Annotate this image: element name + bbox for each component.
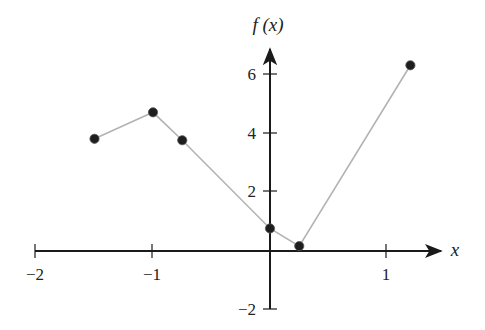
data-point [295, 241, 304, 250]
data-point [406, 61, 415, 70]
y-tick-label-neg2: −2 [238, 300, 256, 319]
x-tick-label-neg1: −1 [143, 265, 161, 284]
function-plot: −2 −1 1 6 4 2 −2 x f (x) [0, 0, 485, 330]
y-axis-label: f (x) [252, 14, 283, 36]
y-tick-label-4: 4 [248, 124, 257, 143]
data-point [148, 108, 157, 117]
x-tick-label-1: 1 [382, 265, 391, 284]
x-tick-label-neg2: −2 [26, 265, 44, 284]
x-axis-label: x [450, 239, 460, 260]
data-point [265, 224, 274, 233]
data-point [178, 136, 187, 145]
y-tick-label-2: 2 [248, 182, 257, 201]
series-line [95, 65, 411, 246]
y-tick-label-6: 6 [248, 65, 257, 84]
data-point [90, 134, 99, 143]
data-series [90, 61, 415, 251]
